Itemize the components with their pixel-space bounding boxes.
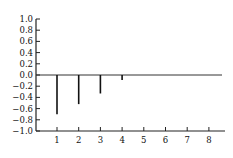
x-tick-label: 6 — [163, 135, 168, 145]
x-tick-label: 7 — [184, 135, 189, 145]
x-tick-label: 4 — [119, 135, 124, 145]
y-tick-label: −0.8 — [12, 115, 33, 125]
y-tick-label: 0.2 — [19, 59, 33, 69]
stem-chart: 1.00.80.60.40.20.0−0.2−0.4−0.6−0.8−1.0 1… — [0, 0, 233, 158]
y-tick-label: 0.4 — [19, 48, 33, 58]
x-tick-label: 2 — [76, 135, 81, 145]
x-tick-label: 1 — [54, 135, 59, 145]
x-tick-label: 3 — [98, 135, 103, 145]
y-tick-label: −0.6 — [12, 104, 33, 114]
y-tick-label: 0.6 — [19, 36, 33, 46]
y-tick-label: 1.0 — [19, 14, 33, 24]
y-tick-label: −0.4 — [12, 92, 33, 102]
x-tick-label: 8 — [206, 135, 211, 145]
y-tick-label: −1.0 — [12, 126, 33, 136]
x-axis: 12345678 — [36, 127, 225, 145]
x-tick-label: 5 — [141, 135, 146, 145]
y-tick-label: −0.2 — [12, 81, 33, 91]
y-tick-label: 0.8 — [19, 25, 33, 35]
y-tick-label: 0.0 — [19, 70, 33, 80]
y-axis: 1.00.80.60.40.20.0−0.2−0.4−0.6−0.8−1.0 — [12, 14, 40, 136]
bars — [57, 75, 122, 114]
